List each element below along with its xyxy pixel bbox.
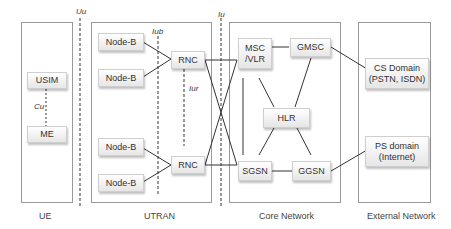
connection-lines [0,0,451,229]
msc-vlr-node: MSC /VLR [238,38,272,69]
iub-interface-label: Iub [152,27,163,36]
node-b-1: Node-B [98,33,144,51]
rnc-2: RNC [171,156,205,174]
me-node: ME [27,126,67,143]
cs-domain-node: CS Domain (PSTN, ISDN) [365,58,429,89]
utran-label: UTRAN [144,211,175,221]
usim-node: USIM [27,72,67,89]
ggsn-node: GGSN [292,161,331,181]
ps-domain-node: PS domain (Internet) [365,136,429,167]
ue-label: UE [39,211,52,221]
sgsn-node: SGSN [238,161,272,181]
uu-interface-label: Uu [76,7,86,16]
rnc-1: RNC [171,51,205,69]
node-b-2: Node-B [98,69,144,87]
node-b-4: Node-B [98,174,144,192]
gmsc-node: GMSC [290,38,331,57]
external-network-label: External Network [367,211,436,221]
cu-interface-label: Cu [34,102,44,111]
core-network-label: Core Network [259,211,314,221]
iu-interface-label: Iu [218,10,225,19]
hlr-node: HLR [263,108,310,128]
iur-interface-label: Iur [189,84,198,93]
node-b-3: Node-B [98,138,144,156]
